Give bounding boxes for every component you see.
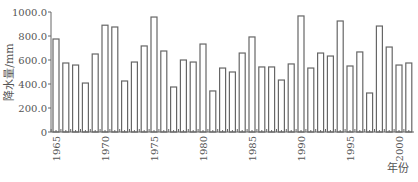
bar-1999 <box>386 47 392 132</box>
bar-1968 <box>82 83 88 132</box>
bar-1996 <box>357 52 363 132</box>
bar-1995 <box>347 66 353 132</box>
bar-1965 <box>53 39 59 132</box>
bar-1986 <box>259 67 265 132</box>
bar-1990 <box>298 16 304 132</box>
bar-1994 <box>337 21 343 132</box>
bar-1982 <box>220 68 226 132</box>
y-tick-label: 1000.0 <box>12 7 47 18</box>
x-tick-label-1970: 1970 <box>100 136 111 161</box>
y-tick-label: 0 <box>41 127 47 138</box>
bar-1970 <box>102 25 108 132</box>
x-tick-label-1965: 1965 <box>51 136 62 161</box>
bar-1984 <box>239 53 245 132</box>
bar-1983 <box>229 72 235 132</box>
bar-1987 <box>269 67 275 132</box>
y-tick-label: 800.0 <box>18 31 47 42</box>
bar-1967 <box>73 65 79 132</box>
bar-1974 <box>141 46 147 132</box>
bar-1966 <box>63 63 69 132</box>
x-axis-title: 年份 <box>387 161 409 175</box>
bar-1989 <box>288 64 294 132</box>
bar-series <box>53 16 412 132</box>
precipitation-bar-chart: 0200.0400.0600.0800.01000.0 196519701975… <box>0 0 418 182</box>
bar-1998 <box>376 26 382 132</box>
bar-1975 <box>151 17 157 132</box>
bar-2001 <box>406 63 412 132</box>
bar-1981 <box>210 91 216 132</box>
y-tick-label: 600.0 <box>18 55 47 66</box>
bar-1977 <box>171 87 177 132</box>
bar-1971 <box>112 27 118 132</box>
bar-1992 <box>318 53 324 132</box>
bar-2000 <box>396 65 402 132</box>
bar-1979 <box>190 62 196 132</box>
y-axis-title: 降水量/mm <box>2 43 16 101</box>
x-tick-label-1985: 1985 <box>247 136 258 161</box>
bar-1985 <box>249 37 255 132</box>
y-axis-ticks: 0200.0400.0600.0800.01000.0 <box>12 7 51 138</box>
bar-1978 <box>180 60 186 132</box>
bar-1997 <box>367 93 373 132</box>
x-tick-label-1995: 1995 <box>345 136 356 161</box>
bar-1973 <box>131 62 137 132</box>
x-axis-tick-labels: 19651970197519801985199019952000 <box>51 136 405 161</box>
bar-1988 <box>278 80 284 132</box>
bar-1972 <box>122 81 128 132</box>
x-tick-label-1990: 1990 <box>296 136 307 161</box>
x-tick-label-2000: 2000 <box>394 136 405 161</box>
y-tick-label: 400.0 <box>18 79 47 90</box>
x-tick-label-1975: 1975 <box>149 136 160 161</box>
bar-1976 <box>161 51 167 132</box>
bar-1969 <box>92 54 98 132</box>
y-tick-label: 200.0 <box>18 103 47 114</box>
bar-1991 <box>308 68 314 132</box>
bar-1993 <box>327 56 333 132</box>
x-tick-label-1980: 1980 <box>198 136 209 161</box>
bar-1980 <box>200 44 206 132</box>
